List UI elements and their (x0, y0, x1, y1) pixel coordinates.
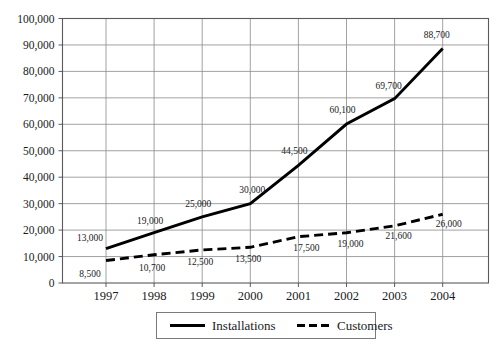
x-axis-tick-label: 2004 (430, 289, 456, 303)
x-axis-labels: 19971998199920002001200220032004 (94, 289, 456, 303)
data-point-label: 13,500 (235, 254, 261, 264)
data-point-label: 17,500 (293, 243, 319, 253)
data-point-label: 60,100 (329, 105, 355, 115)
y-axis-tick-label: 100,000 (17, 13, 55, 26)
y-axis-tick-label: 70,000 (23, 92, 55, 105)
line-chart: 010,00020,00030,00040,00050,00060,00070,… (0, 0, 503, 352)
legend-label-customers: Customers (337, 318, 393, 333)
data-point-label: 88,700 (424, 30, 450, 40)
data-point-label: 10,700 (139, 263, 165, 273)
x-axis-tick-label: 2002 (334, 289, 359, 303)
y-axis-tick-label: 40,000 (23, 171, 55, 184)
data-point-label: 21,600 (386, 231, 412, 241)
x-axis-tick-label: 2001 (286, 289, 311, 303)
y-axis-tick-label: 20,000 (23, 224, 55, 237)
y-axis-tick-label: 0 (49, 277, 55, 289)
x-axis-tick-label: 2003 (382, 289, 407, 303)
data-point-label: 12,500 (187, 257, 213, 267)
x-axis-tick-label: 1999 (190, 289, 215, 303)
data-point-label: 25,000 (185, 199, 211, 209)
data-point-label: 8,500 (79, 269, 101, 279)
data-point-label: 30,000 (239, 185, 265, 195)
data-point-label: 69,700 (376, 81, 402, 91)
legend-label-installations: Installations (212, 318, 276, 333)
chart-legend: Installations Customers (157, 313, 393, 339)
data-point-label: 26,000 (436, 219, 462, 229)
y-axis-tick-label: 30,000 (23, 198, 55, 211)
x-axis-tick-label: 1998 (142, 289, 167, 303)
y-axis-tick-label: 80,000 (23, 65, 55, 78)
data-point-label: 19,000 (337, 239, 363, 249)
y-axis-tick-label: 50,000 (23, 145, 55, 158)
series-point-labels: 13,00019,00025,00030,00044,50060,10069,7… (77, 30, 462, 278)
x-axis-tick-label: 2000 (238, 289, 263, 303)
y-axis-tick-label: 90,000 (23, 39, 55, 52)
y-axis-labels: 010,00020,00030,00040,00050,00060,00070,… (17, 13, 55, 290)
y-axis-tick-label: 10,000 (23, 251, 55, 264)
y-axis-ticks (59, 19, 63, 284)
chart-page: 010,00020,00030,00040,00050,00060,00070,… (0, 0, 503, 352)
data-point-label: 44,500 (281, 146, 307, 156)
data-point-label: 13,000 (77, 233, 103, 243)
x-axis-tick-label: 1997 (94, 289, 119, 303)
x-axis-ticks (106, 283, 443, 287)
horizontal-gridlines (63, 45, 489, 257)
data-point-label: 19,000 (137, 216, 163, 226)
y-axis-tick-label: 60,000 (23, 118, 55, 131)
